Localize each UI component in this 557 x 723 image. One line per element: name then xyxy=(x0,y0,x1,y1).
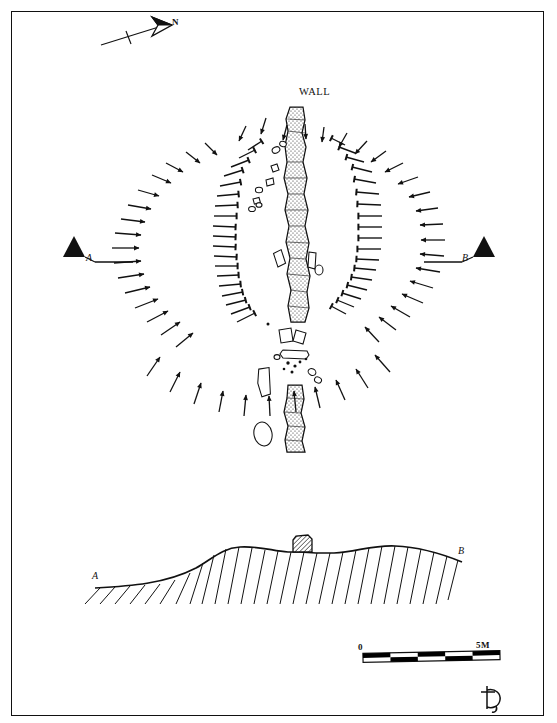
plan-section-label-b: B xyxy=(462,252,469,263)
section-hachure-fill xyxy=(85,546,458,604)
drawing-sheet: WALL N A B A B 0 5M xyxy=(0,0,557,723)
plan-section-label-a: A xyxy=(86,252,93,263)
scale-min-label: 0 xyxy=(358,642,363,652)
hachures-inner-right xyxy=(331,138,382,314)
wall-structure-north xyxy=(284,107,310,322)
section-label-b: B xyxy=(458,545,465,556)
scale-bar xyxy=(363,651,500,663)
section-marker-a xyxy=(63,236,133,262)
north-label: N xyxy=(172,17,179,27)
scale-max-label: 5M xyxy=(476,640,490,650)
north-arrow-icon xyxy=(101,17,172,45)
section-wall-block xyxy=(293,535,312,552)
hachures-inner-left xyxy=(213,141,262,322)
signature-monogram xyxy=(481,686,500,712)
wall-label: WALL xyxy=(299,86,330,97)
cross-section-profile xyxy=(85,535,462,604)
site-plan-graphics xyxy=(0,0,557,723)
section-label-a: A xyxy=(92,570,99,581)
